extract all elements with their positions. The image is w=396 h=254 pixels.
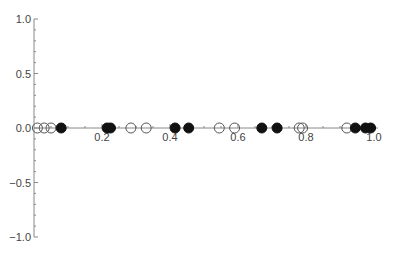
filled-point xyxy=(366,123,376,133)
y-tick-label: 1.0 xyxy=(16,13,31,25)
y-tick-label: −1.0 xyxy=(9,231,31,243)
filled-point xyxy=(184,123,194,133)
y-tick-label: 0.0 xyxy=(16,122,31,134)
filled-point xyxy=(257,123,267,133)
y-tick-label: 0.5 xyxy=(16,68,31,80)
scatter-chart: 1.00.50.0−0.5−1.00.20.40.60.81.0 xyxy=(0,0,396,254)
filled-point xyxy=(56,123,66,133)
filled-point xyxy=(106,123,116,133)
filled-point xyxy=(350,123,360,133)
filled-point xyxy=(170,123,180,133)
y-tick-label: −0.5 xyxy=(9,177,31,189)
filled-point xyxy=(272,123,282,133)
